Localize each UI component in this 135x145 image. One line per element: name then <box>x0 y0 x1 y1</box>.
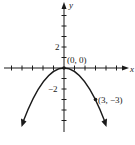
y-axis-label: y <box>68 0 73 10</box>
vertex-label: (0, 0) <box>67 55 87 65</box>
parabola-graph: y x 2 −2 (0, 0) (3, −3) <box>0 0 135 145</box>
x-axis-arrow-icon <box>122 66 129 71</box>
tick-label-2: 2 <box>55 42 60 52</box>
point-3-neg3 <box>94 98 98 102</box>
vertex-point <box>62 66 66 70</box>
point-label: (3, −3) <box>98 95 123 105</box>
tick-label-neg2: −2 <box>48 84 58 94</box>
x-axis-label: x <box>129 64 134 74</box>
y-axis-arrow-icon <box>62 2 67 9</box>
